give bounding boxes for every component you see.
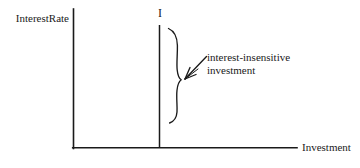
x-axis-label: Investment: [302, 141, 351, 154]
brace-marker: [169, 29, 182, 124]
investment-schedule-figure: InterestRate Investment I interest-insen…: [0, 0, 360, 168]
y-axis-label-line-1: Interest: [16, 12, 49, 24]
y-axis-label-line-2: Rate: [49, 12, 69, 24]
annotation-line-2: investment: [207, 64, 290, 77]
y-axis-label: InterestRate: [0, 12, 69, 25]
callout-arrow: [185, 57, 207, 80]
annotation-callout: interest-insensitiveinvestment: [207, 51, 290, 77]
annotation-line-1: interest-insensitive: [207, 51, 290, 64]
investment-curve-label: I: [154, 6, 166, 20]
